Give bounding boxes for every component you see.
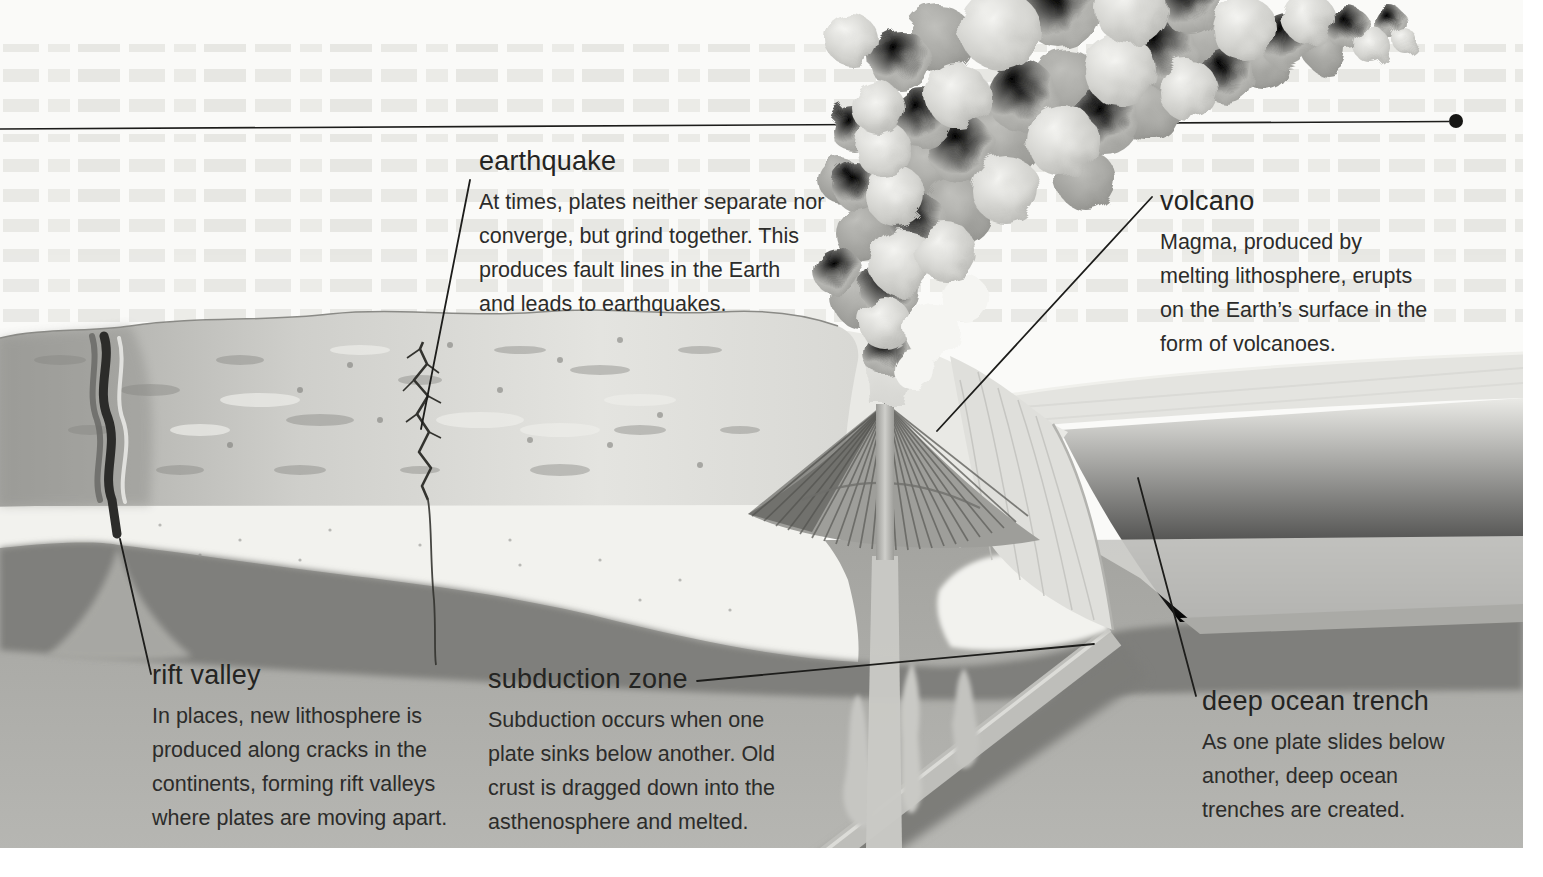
magma-conduit-deep bbox=[866, 556, 902, 848]
label-deep-ocean-trench-body: As one plate slides below another, deep … bbox=[1202, 725, 1532, 827]
label-volcano-title: volcano bbox=[1160, 186, 1500, 217]
label-rift-valley: rift valley In places, new lithosphere i… bbox=[152, 660, 502, 835]
bottom-margin bbox=[0, 848, 1543, 877]
label-volcano: volcano Magma, produced by melting litho… bbox=[1160, 186, 1500, 361]
label-subduction-zone: subduction zone Subduction occurs when o… bbox=[488, 664, 842, 839]
label-rift-valley-title: rift valley bbox=[152, 660, 502, 691]
label-earthquake-title: earthquake bbox=[479, 146, 859, 177]
label-deep-ocean-trench: deep ocean trench As one plate slides be… bbox=[1202, 686, 1532, 827]
label-rift-valley-body: In places, new lithosphere is produced a… bbox=[152, 699, 502, 835]
textbook-diagram-page: earthquake At times, plates neither sepa… bbox=[0, 0, 1543, 877]
rule-end-dot bbox=[1449, 114, 1463, 128]
continental-terrain bbox=[0, 310, 858, 506]
label-deep-ocean-trench-title: deep ocean trench bbox=[1202, 686, 1532, 717]
label-earthquake: earthquake At times, plates neither sepa… bbox=[479, 146, 859, 321]
label-subduction-zone-body: Subduction occurs when one plate sinks b… bbox=[488, 703, 842, 839]
magma-conduit-cone bbox=[876, 404, 894, 560]
label-subduction-zone-title: subduction zone bbox=[488, 664, 842, 695]
label-volcano-body: Magma, produced by melting lithosphere, … bbox=[1160, 225, 1500, 361]
label-earthquake-body: At times, plates neither separate nor co… bbox=[479, 185, 859, 321]
